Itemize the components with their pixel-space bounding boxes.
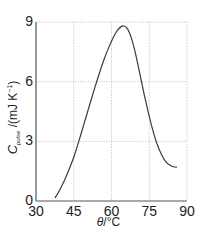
x-axis-label: θ/°C bbox=[97, 215, 121, 229]
x-tick-label: 75 bbox=[141, 203, 157, 219]
series-line-c-pulse bbox=[55, 26, 177, 198]
x-axis-label-unit: /°C bbox=[103, 215, 120, 229]
x-tick-label: 90 bbox=[179, 203, 195, 219]
y-axis-label: Cpulse /(mJ K−1) bbox=[5, 81, 21, 155]
y-axis-label-superscript: −1 bbox=[6, 85, 13, 93]
x-tick-label: 45 bbox=[66, 203, 82, 219]
y-tick-label: 0 bbox=[25, 192, 33, 208]
y-tick-label: 3 bbox=[25, 132, 33, 148]
y-axis-label-unit: /(mJ K bbox=[6, 93, 20, 131]
y-axis-label-close: ) bbox=[6, 81, 20, 85]
y-axis-label-subscript: pulse bbox=[15, 130, 21, 146]
grid-lines bbox=[36, 22, 187, 201]
y-tick-label: 9 bbox=[25, 13, 33, 29]
y-tick-labels: 0369 bbox=[25, 13, 33, 208]
y-tick-label: 6 bbox=[25, 73, 33, 89]
chart: 3045607590 0369 θ/°C Cpulse /(mJ K−1) bbox=[0, 0, 201, 238]
